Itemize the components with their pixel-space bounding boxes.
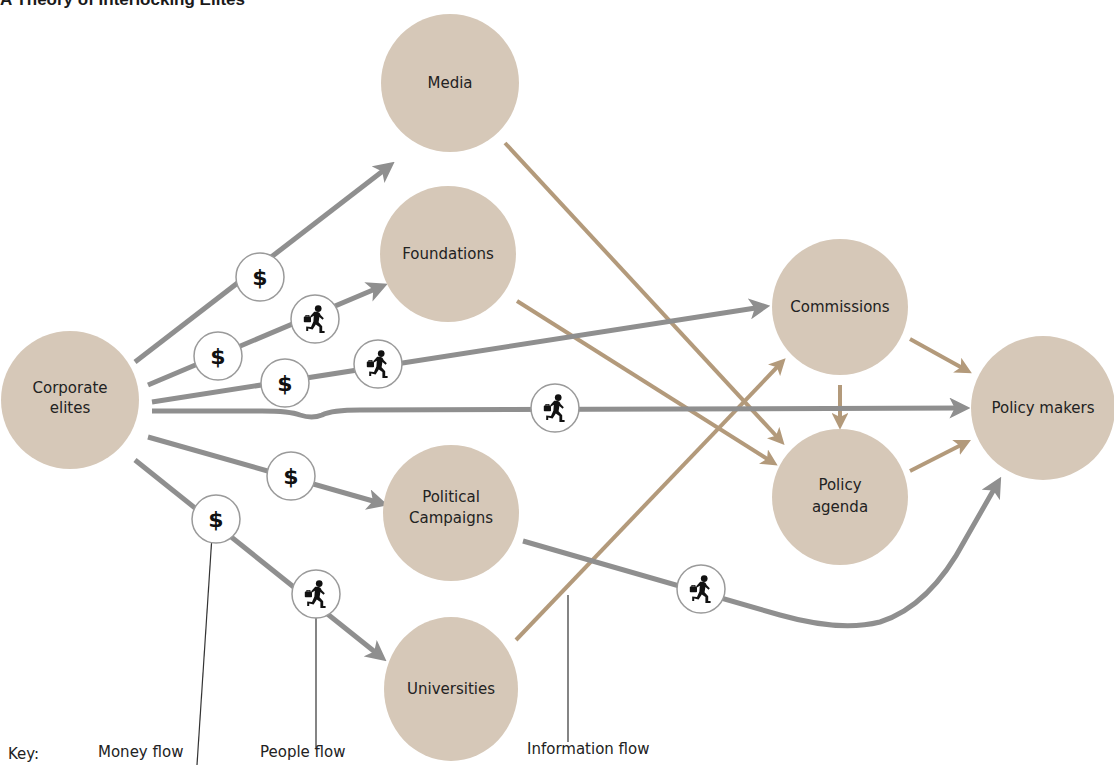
flow-corporate-to-political — [148, 437, 380, 503]
dollar-sign-icon: $ — [252, 265, 267, 290]
people-badge — [677, 565, 725, 613]
interlocking-elites-diagram: Corporate elites Media Foundations Polit… — [0, 0, 1114, 769]
key-item-information-flow: Information flow — [527, 740, 650, 758]
key-item-people-flow: People flow — [260, 743, 346, 761]
node-foundations[interactable]: Foundations — [380, 186, 516, 322]
key-label: Key: — [8, 745, 39, 763]
flow-political-to-makers — [523, 484, 997, 626]
money-badge: $ — [192, 495, 240, 543]
people-badge — [531, 384, 579, 432]
dollar-sign-icon: $ — [283, 464, 298, 489]
node-label: Commissions — [790, 298, 890, 316]
node-label: agenda — [812, 498, 868, 516]
money-badge: $ — [236, 253, 284, 301]
node-label: elites — [50, 399, 91, 417]
money-badge: $ — [267, 452, 315, 500]
node-label: Campaigns — [409, 509, 493, 527]
node-policy-makers[interactable]: Policy makers — [971, 336, 1114, 480]
dollar-sign-icon: $ — [210, 344, 225, 369]
money-badge: $ — [261, 359, 309, 407]
flow-agenda-to-makers — [910, 443, 965, 471]
people-badge — [291, 295, 339, 343]
key-leader-lines — [197, 505, 568, 765]
flow-commissions-to-makers — [910, 339, 966, 370]
key: Key: Money flow People flow Information … — [8, 740, 650, 763]
node-label: Corporate — [33, 379, 108, 397]
node-corporate-elites[interactable]: Corporate elites — [1, 331, 139, 469]
node-label: Policy — [818, 476, 861, 494]
node-political-campaigns[interactable]: Political Universities Campaigns — [383, 445, 519, 581]
key-item-money-flow: Money flow — [98, 743, 183, 761]
people-badge — [292, 570, 340, 618]
node-policy-agenda[interactable]: Policy agenda — [772, 429, 908, 565]
dollar-sign-icon: $ — [277, 371, 292, 396]
dollar-sign-icon: $ — [208, 507, 223, 532]
node-label: Media — [427, 74, 472, 92]
information-flows — [505, 143, 966, 640]
node-label: Political — [422, 488, 480, 506]
flow-corporate-to-universities — [135, 460, 380, 656]
money-badge: $ — [194, 332, 242, 380]
node-media[interactable]: Media — [381, 14, 519, 152]
node-label: Universities — [407, 680, 495, 698]
node-commissions[interactable]: Commissions — [772, 239, 908, 375]
people-badge — [354, 340, 402, 388]
leader-money — [197, 505, 214, 765]
node-label: Policy makers — [991, 399, 1094, 417]
node-universities[interactable]: Universities — [384, 617, 518, 761]
node-label: Foundations — [402, 245, 494, 263]
